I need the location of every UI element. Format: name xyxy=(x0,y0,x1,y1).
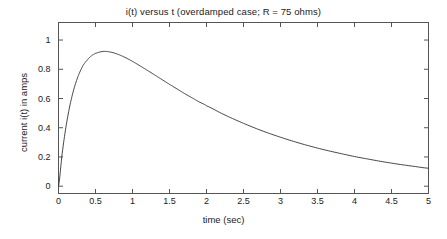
x-tick-label: 0.5 xyxy=(89,196,102,206)
y-axis-ticks xyxy=(59,40,429,186)
x-tick-label: 3 xyxy=(278,196,283,206)
x-tick-label: 2.5 xyxy=(237,196,250,206)
x-tick-label: 3.5 xyxy=(311,196,324,206)
plot-canvas xyxy=(0,0,447,239)
y-axis-label: current i(t) in amps xyxy=(18,38,29,188)
data-series-group xyxy=(59,51,429,186)
x-tick-label: 4.5 xyxy=(385,196,398,206)
x-axis-ticks xyxy=(59,23,429,194)
x-tick-label: 5 xyxy=(426,196,431,206)
x-tick-label: 0 xyxy=(56,196,61,206)
x-tick-label: 4 xyxy=(352,196,357,206)
chart-figure: i(t) versus t (overdamped case; R = 75 o… xyxy=(0,0,447,239)
x-tick-label: 2 xyxy=(204,196,209,206)
x-tick-label: 1 xyxy=(130,196,135,206)
x-axis-label: time (sec) xyxy=(0,214,447,225)
x-tick-label: 1.5 xyxy=(163,196,176,206)
axes-frame xyxy=(59,23,429,194)
